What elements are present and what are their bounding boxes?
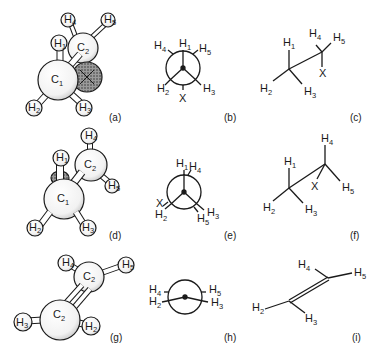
caption-f: (f)	[350, 230, 359, 241]
svg-text:H5: H5	[108, 179, 120, 193]
caption-i: (i)	[352, 332, 361, 343]
svg-text:H4: H4	[64, 13, 76, 27]
caption-g: (g)	[110, 332, 122, 343]
svg-text:H3: H3	[203, 82, 215, 97]
svg-text:H1: H1	[283, 36, 295, 51]
svg-text:H2: H2	[263, 201, 275, 216]
svg-text:X: X	[311, 180, 319, 192]
svg-text:H1: H1	[179, 37, 191, 52]
svg-text:H4: H4	[298, 258, 310, 273]
svg-text:H4: H4	[321, 132, 333, 147]
caption-a: (a)	[109, 112, 121, 123]
svg-text:H2: H2	[252, 301, 264, 316]
caption-b: (b)	[224, 112, 236, 123]
newman-h	[162, 280, 208, 314]
svg-text:H3: H3	[305, 203, 317, 218]
svg-text:H5: H5	[333, 31, 345, 46]
newman-e-labels: H1 H4 X H2 H5 H3 (e)	[155, 157, 236, 241]
svg-text:H5: H5	[342, 181, 354, 196]
svg-text:X: X	[319, 67, 327, 79]
svg-text:H3: H3	[211, 296, 223, 311]
svg-text:H3: H3	[304, 85, 316, 100]
svg-text:H4: H4	[154, 39, 166, 54]
sawhorse-f-labels: H1 H4 H5 H2 H3 X (f)	[263, 132, 359, 241]
conformation-figure: H4 H5 C2 H1 C1 H2 H3 (a) H1 H4 H5 H2 H3 …	[0, 0, 379, 358]
caption-c: (c)	[350, 112, 362, 123]
svg-text:H4: H4	[309, 27, 321, 42]
sawhorse-i	[265, 269, 352, 313]
svg-text:H2: H2	[260, 82, 272, 97]
svg-text:H4: H4	[189, 160, 201, 175]
sawhorse-i-labels: H4 H5 H2 H3 (i)	[252, 258, 366, 343]
sawhorse-c-labels: H1 H4 H5 H2 H3 X (c)	[260, 27, 362, 123]
svg-text:H5: H5	[199, 42, 211, 57]
newman-e	[163, 170, 204, 212]
newman-h-labels: H4 H2 H5 H3 (h)	[149, 283, 236, 343]
svg-text:X: X	[179, 92, 187, 104]
model-d	[27, 128, 119, 236]
caption-h: (h)	[224, 332, 236, 343]
svg-text:H5: H5	[354, 266, 366, 281]
caption-d: (d)	[109, 230, 121, 241]
svg-text:H5: H5	[104, 13, 116, 27]
svg-text:H2: H2	[155, 208, 167, 223]
svg-text:H3: H3	[305, 312, 317, 327]
svg-text:H2: H2	[157, 82, 169, 97]
sawhorse-f	[273, 145, 340, 203]
svg-text:H1: H1	[176, 157, 188, 172]
newman-b	[165, 50, 201, 90]
caption-e: (e)	[224, 230, 236, 241]
svg-text:H1: H1	[284, 155, 296, 170]
model-a	[26, 13, 115, 116]
